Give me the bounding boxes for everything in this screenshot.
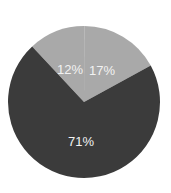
pie-slice-label: 71% [68,135,94,148]
pie-chart-svg [0,0,171,193]
pie-slice-label: 17% [89,64,115,77]
pie-slice-label: 12% [57,63,83,76]
